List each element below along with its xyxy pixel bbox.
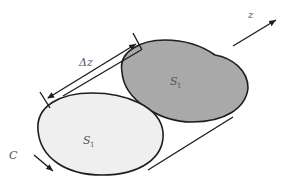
front-surface-shape <box>38 93 163 175</box>
z-axis-arrow <box>233 20 276 46</box>
delta-z-tick-left <box>40 92 50 108</box>
contour-label: C <box>9 149 18 162</box>
cylinder-slice-diagram: Δz z S 1 S 1 C <box>0 0 294 187</box>
back-surface-subscript: 1 <box>177 82 181 90</box>
front-surface-subscript: 1 <box>90 141 94 149</box>
z-axis-label: z <box>247 9 254 20</box>
delta-z-label: Δz <box>78 56 93 69</box>
